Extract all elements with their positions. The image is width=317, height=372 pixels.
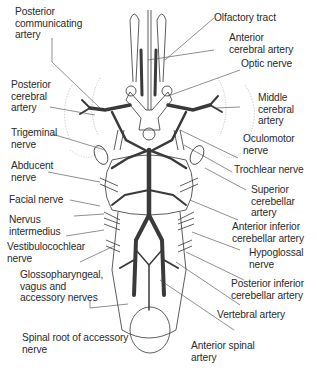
label-line: cerebellar <box>251 196 295 208</box>
label-line: Posterior inferior <box>231 278 304 290</box>
label-line: Vertebral artery <box>217 309 285 321</box>
label-spinal-root-accessory-nerve: Spinal root of accessory nerve <box>22 332 128 355</box>
label-line: artery <box>251 207 295 219</box>
label-line: Trochlear nerve <box>234 164 303 176</box>
label-superior-cerebellar-artery: Superior cerebellar artery <box>251 184 295 219</box>
label-trigeminal-nerve: Trigeminal nerve <box>11 127 57 150</box>
label-line: Middle <box>258 92 294 104</box>
brainstem-diagram: Posterior communicating artery Posterior… <box>0 0 317 372</box>
label-line: Posterior <box>15 6 82 18</box>
label-line: cerebral <box>11 91 51 103</box>
label-oculomotor-nerve: Oculomotor nerve <box>243 133 295 156</box>
label-line: artery <box>191 352 255 364</box>
label-posterior-communicating-artery: Posterior communicating artery <box>15 6 82 41</box>
label-line: artery <box>258 115 294 127</box>
label-anterior-spinal-artery: Anterior spinal artery <box>191 340 255 363</box>
label-line: Oculomotor <box>243 133 295 145</box>
label-posterior-inferior-cerebellar-artery: Posterior inferior cerebellar artery <box>231 278 304 301</box>
label-line: Vestibulocochlear <box>7 241 85 253</box>
label-line: Spinal root of accessory <box>22 332 128 344</box>
label-line: artery <box>11 102 51 114</box>
label-line: intermedius <box>9 226 61 238</box>
label-line: communicating <box>15 18 82 30</box>
label-trochlear-nerve: Trochlear nerve <box>234 164 303 176</box>
label-line: cerebral artery <box>229 44 293 56</box>
label-line: Facial nerve <box>9 194 63 206</box>
label-nervus-intermedius: Nervus intermedius <box>9 214 61 237</box>
label-line: Nervus <box>9 214 61 226</box>
label-vestibulocochlear-nerve: Vestibulocochlear nerve <box>7 241 85 264</box>
label-line: Anterior spinal <box>191 340 255 352</box>
label-anterior-cerebral-artery: Anterior cerebral artery <box>229 32 293 55</box>
label-line: Glossopharyngeal, <box>20 269 103 281</box>
label-anterior-inferior-cerebellar-artery: Anterior inferior cerebellar artery <box>232 221 304 244</box>
label-line: vagus and <box>20 281 103 293</box>
label-line: nerve <box>249 259 303 271</box>
label-posterior-cerebral-artery: Posterior cerebral artery <box>11 79 51 114</box>
label-line: cerebral <box>258 104 294 116</box>
label-hypoglossal-nerve: Hypoglossal nerve <box>249 247 303 270</box>
label-middle-cerebral-artery: Middle cerebral artery <box>258 92 294 127</box>
label-line: cerebellar artery <box>232 233 304 245</box>
label-line: nerve <box>22 344 128 356</box>
label-optic-nerve: Optic nerve <box>241 58 292 70</box>
label-line: nerve <box>11 139 57 151</box>
label-olfactory-tract: Olfactory tract <box>214 12 276 24</box>
label-abducent-nerve: Abducent nerve <box>11 160 53 183</box>
label-line: Anterior inferior <box>232 221 304 233</box>
label-line: Anterior <box>229 32 293 44</box>
label-line: Olfactory tract <box>214 12 276 24</box>
label-line: Superior <box>251 184 295 196</box>
label-line: artery <box>15 29 82 41</box>
label-line: Abducent <box>11 160 53 172</box>
label-glossopharyngeal-vagus-accessory-nerves: Glossopharyngeal, vagus and accessory ne… <box>20 269 103 304</box>
label-facial-nerve: Facial nerve <box>9 194 63 206</box>
label-line: nerve <box>243 145 295 157</box>
label-vertebral-artery: Vertebral artery <box>217 309 285 321</box>
label-line: accessory nerves <box>20 292 103 304</box>
label-line: nerve <box>11 172 53 184</box>
label-line: Hypoglossal <box>249 247 303 259</box>
label-line: nerve <box>7 253 85 265</box>
label-line: Posterior <box>11 79 51 91</box>
label-line: cerebellar artery <box>231 290 304 302</box>
label-line: Optic nerve <box>241 58 292 70</box>
label-line: Trigeminal <box>11 127 57 139</box>
